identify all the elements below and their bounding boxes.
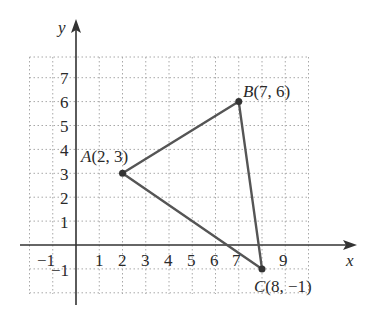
coordinate-plane: x y −1 1 2 3 4 5 6 7 9 7 6 5 4 3 2 1 −1 …: [0, 0, 380, 319]
label-b-coords: (7, 6): [253, 82, 290, 101]
label-c-name: C: [254, 277, 266, 296]
y-tick: 1: [60, 213, 69, 232]
y-tick: 5: [60, 117, 69, 136]
y-tick: −1: [51, 261, 69, 280]
label-b: B(7, 6): [243, 82, 290, 101]
y-tick: 6: [60, 93, 69, 112]
point-a: [119, 170, 126, 177]
point-c: [259, 265, 266, 272]
x-tick: 1: [95, 251, 104, 270]
label-c-coords: (8, −1): [265, 277, 311, 296]
label-a: A(2, 3): [80, 147, 128, 166]
label-c: C(8, −1): [254, 277, 312, 296]
y-tick: 4: [60, 141, 69, 160]
axes: [20, 26, 350, 305]
label-b-name: B: [243, 82, 254, 101]
x-tick: 4: [164, 251, 173, 270]
y-tick-labels: 7 6 5 4 3 2 1 −1: [51, 69, 69, 280]
y-tick: 3: [60, 165, 69, 184]
label-a-coords: (2, 3): [91, 147, 128, 166]
x-tick: 2: [118, 251, 127, 270]
y-tick: 7: [60, 69, 69, 88]
y-tick: 2: [60, 189, 69, 208]
x-tick: 6: [210, 251, 219, 270]
point-b: [235, 98, 242, 105]
y-axis-label: y: [56, 18, 66, 37]
x-tick: 5: [187, 251, 196, 270]
label-a-name: A: [80, 147, 92, 166]
x-tick: 3: [141, 251, 150, 270]
x-tick: 9: [279, 251, 288, 270]
x-axis-label: x: [345, 251, 354, 270]
